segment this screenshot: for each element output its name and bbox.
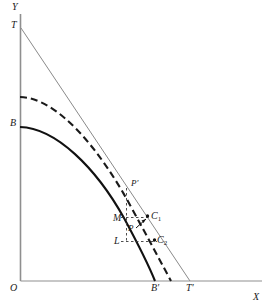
point-label-l: L: [114, 236, 120, 246]
point-label-c2: C2: [157, 235, 167, 245]
origin-label: O: [10, 283, 17, 293]
x-axis-label: X: [253, 292, 259, 302]
figure-drawing: [0, 0, 269, 307]
point-label-b: B: [10, 118, 16, 128]
point-label-p: P: [128, 224, 134, 233]
point-label-b-prime: B′: [151, 283, 159, 293]
point-label-c2-text: C: [157, 234, 164, 245]
solid-frontier-curve: [20, 127, 155, 281]
point-label-c1-subscript: 1: [158, 215, 162, 223]
point-label-t-prime: T′: [186, 283, 194, 293]
figure-canvas: Y T B O B′ T′ X P′ M C1 P L C2: [0, 0, 269, 307]
point-label-c2-subscript: 2: [164, 239, 168, 247]
point-marker-c2: [153, 238, 156, 241]
dashed-frontier-curve: [20, 97, 171, 281]
point-label-p-prime: P′: [131, 179, 138, 188]
point-label-m: M: [113, 213, 121, 223]
y-axis-label: Y: [12, 2, 18, 12]
point-marker-c1: [146, 214, 149, 217]
point-label-c1: C1: [151, 211, 161, 221]
point-label-c1-text: C: [151, 210, 158, 221]
point-label-t: T: [11, 20, 17, 30]
